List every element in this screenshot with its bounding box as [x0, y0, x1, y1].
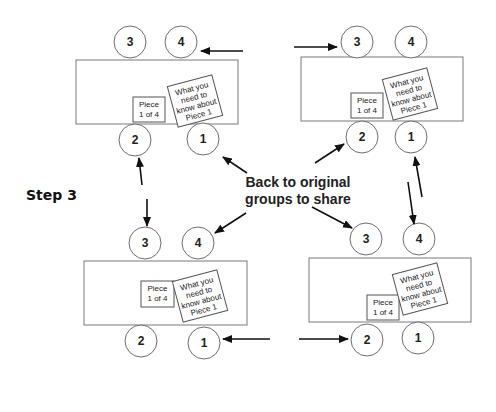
center-label-line2: groups to share	[245, 191, 351, 207]
arrow-icon	[408, 182, 414, 224]
svg-text:1 of 4: 1 of 4	[373, 308, 394, 317]
svg-text:4: 4	[178, 35, 185, 49]
jigsaw-step3-diagram: Step 3 3 4 Piece 1 of 4 What you need to…	[0, 0, 496, 412]
svg-text:1: 1	[200, 132, 207, 146]
seat-3: 3	[350, 223, 382, 255]
seat-1: 1	[395, 121, 427, 153]
arrow-icon	[223, 157, 247, 173]
piece-card: Piece 1 of 4	[351, 93, 383, 118]
svg-text:2: 2	[359, 130, 366, 144]
seat-4: 4	[395, 26, 427, 58]
center-label-line1: Back to original	[245, 174, 350, 190]
seat-3: 3	[129, 227, 161, 259]
seat-1: 1	[402, 322, 434, 354]
seat-1: 1	[187, 123, 219, 155]
piece-card: Piece 1 of 4	[367, 295, 399, 320]
svg-text:3: 3	[142, 236, 149, 250]
piece-card: Piece 1 of 4	[133, 97, 165, 122]
group-bottom-left: 3 4 Piece 1 of 4 What you need to know a…	[84, 227, 247, 359]
svg-text:2: 2	[364, 333, 371, 347]
seat-2: 2	[351, 324, 383, 356]
seat-2: 2	[346, 121, 378, 153]
svg-text:1: 1	[415, 331, 422, 345]
arrow-icon	[215, 213, 246, 233]
svg-text:1 of 4: 1 of 4	[357, 106, 378, 115]
svg-text:2: 2	[132, 133, 139, 147]
arrow-icon	[312, 207, 352, 228]
seat-4: 4	[165, 26, 197, 58]
svg-text:4: 4	[416, 232, 423, 246]
svg-text:4: 4	[195, 236, 202, 250]
seat-3: 3	[341, 26, 373, 58]
seat-4: 4	[403, 223, 435, 255]
group-bottom-right: 3 4 Piece 1 of 4 What you need to know a…	[309, 223, 471, 356]
svg-text:3: 3	[127, 35, 134, 49]
svg-text:Piece: Piece	[357, 96, 378, 105]
svg-text:1: 1	[201, 336, 208, 350]
svg-text:1 of 4: 1 of 4	[139, 110, 160, 119]
svg-text:Piece: Piece	[139, 100, 160, 109]
svg-text:1 of 4: 1 of 4	[147, 294, 168, 303]
svg-text:2: 2	[138, 334, 145, 348]
svg-text:4: 4	[408, 35, 415, 49]
piece-card: Piece 1 of 4	[141, 281, 174, 307]
svg-text:3: 3	[363, 232, 370, 246]
seat-2: 2	[119, 124, 151, 156]
seat-2: 2	[125, 325, 157, 357]
svg-text:Piece: Piece	[373, 298, 394, 307]
seat-1: 1	[188, 327, 220, 359]
arrow-icon	[139, 158, 142, 185]
group-top-left: 3 4 Piece 1 of 4 What you need to know a…	[76, 26, 238, 156]
svg-text:1: 1	[408, 130, 415, 144]
arrow-icon	[315, 144, 344, 163]
seat-4: 4	[182, 227, 214, 259]
step-label: Step 3	[26, 187, 77, 203]
group-top-right: 3 4 Piece 1 of 4 What you need to know a…	[301, 26, 463, 153]
seat-3: 3	[114, 26, 146, 58]
svg-text:Piece: Piece	[147, 284, 168, 293]
svg-text:3: 3	[354, 35, 361, 49]
arrow-icon	[415, 157, 422, 197]
